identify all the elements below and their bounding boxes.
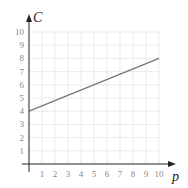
x-tick-label: 2 <box>53 169 58 179</box>
tick-labels: 1234567891012345678910 <box>15 27 164 179</box>
x-tick-label: 9 <box>144 169 149 179</box>
y-tick-label: 3 <box>20 119 25 129</box>
y-axis-arrow-icon <box>26 14 32 22</box>
x-tick-label: 6 <box>105 169 110 179</box>
x-tick-label: 5 <box>92 169 97 179</box>
x-axis-label: p <box>171 169 179 184</box>
y-tick-label: 4 <box>20 106 25 116</box>
x-tick-label: 4 <box>79 169 84 179</box>
x-tick-label: 1 <box>40 169 45 179</box>
grid <box>29 32 159 164</box>
y-tick-label: 8 <box>20 53 25 63</box>
y-tick-label: 1 <box>20 146 25 156</box>
y-tick-label: 9 <box>20 40 25 50</box>
y-tick-label: 5 <box>20 93 25 103</box>
x-tick-label: 10 <box>155 169 165 179</box>
y-tick-label: 2 <box>20 133 25 143</box>
x-axis-arrow-icon <box>168 161 176 167</box>
line-chart: 1234567891012345678910 p C <box>0 0 188 188</box>
x-tick-label: 3 <box>66 169 71 179</box>
y-tick-label: 6 <box>20 80 25 90</box>
y-tick-label: 7 <box>20 67 25 77</box>
y-axis-label: C <box>33 10 43 25</box>
y-tick-label: 10 <box>15 27 25 37</box>
x-tick-label: 7 <box>118 169 123 179</box>
x-tick-label: 8 <box>131 169 136 179</box>
